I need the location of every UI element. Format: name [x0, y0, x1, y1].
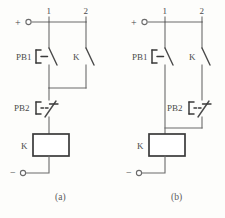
caption-b: (b): [171, 192, 182, 203]
node-label-a-2: 2: [84, 6, 89, 16]
pb2-a-label: PB2: [14, 103, 30, 113]
k-contact-b-blade: [202, 48, 210, 65]
circuit-diagram-canvas: + 1 2 PB1 K: [0, 0, 225, 218]
k-contact-a-blade: [86, 48, 94, 65]
circuit-b-group: + 1 2 PB1 K: [126, 6, 211, 203]
pb2-b-label: PB2: [167, 103, 183, 113]
pb1-b-blade: [165, 48, 173, 65]
circuit-a-group: + 1 2 PB1 K: [10, 6, 94, 203]
pb1-a-blade: [49, 48, 57, 65]
terminal-a-negative[interactable]: [20, 170, 25, 175]
relay-coil-b-label: K: [137, 141, 144, 151]
terminal-b-positive[interactable]: [142, 19, 147, 24]
terminal-a-positive[interactable]: [26, 19, 31, 24]
node-label-b-2: 2: [200, 6, 205, 16]
pb1-b-label: PB1: [132, 52, 148, 62]
wire-b-return: [142, 156, 165, 173]
figure-root: + 1 2 PB1 K: [0, 0, 225, 218]
caption-a: (a): [55, 192, 66, 203]
k-contact-a-label: K: [73, 52, 80, 62]
polarity-label-a-negative: −: [10, 167, 16, 178]
polarity-label-b-negative: −: [126, 167, 132, 178]
relay-coil-a-label: K: [21, 141, 28, 151]
node-label-b-1: 1: [163, 6, 168, 16]
wire-a-return: [26, 156, 49, 173]
relay-coil-b-box: [149, 134, 185, 156]
k-contact-b-label: K: [189, 52, 196, 62]
pb1-a-label: PB1: [16, 52, 32, 62]
relay-coil-a-box: [33, 134, 69, 156]
node-label-a-1: 1: [47, 6, 52, 16]
polarity-label-b-positive: +: [131, 17, 137, 28]
terminal-b-negative[interactable]: [136, 170, 141, 175]
polarity-label-a-positive: +: [15, 17, 21, 28]
